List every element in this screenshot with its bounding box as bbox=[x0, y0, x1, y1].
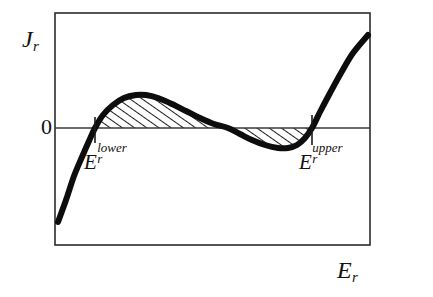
zero-tick-label: 0 bbox=[41, 116, 52, 138]
upper-root-label: Erupper bbox=[299, 148, 312, 173]
lower-root-label-sup: lower bbox=[97, 141, 127, 154]
upper-root-label-base: E bbox=[299, 150, 312, 174]
x-axis-label: Er bbox=[337, 258, 357, 282]
y-axis-label-base: J bbox=[22, 26, 33, 52]
y-axis-label: Jr bbox=[22, 27, 38, 51]
upper-root-label-sup: upper bbox=[312, 141, 342, 154]
figure-root: Jr 0 Erlower Erupper Er bbox=[0, 0, 433, 297]
lower-root-label-base: E bbox=[84, 150, 97, 174]
plot-frame bbox=[55, 13, 370, 245]
x-axis-label-base: E bbox=[337, 257, 352, 283]
plot-canvas bbox=[0, 0, 433, 297]
lower-root-label: Erlower bbox=[84, 148, 97, 173]
x-axis-label-sub: r bbox=[352, 269, 358, 285]
y-axis-label-sub: r bbox=[33, 38, 39, 54]
